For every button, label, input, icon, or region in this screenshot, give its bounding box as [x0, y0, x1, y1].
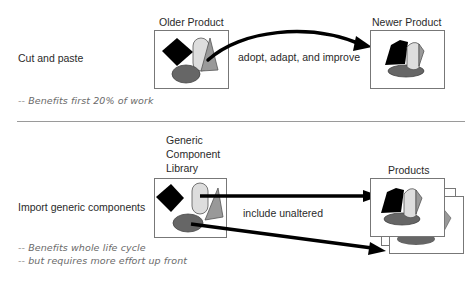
ellipse-icon: [172, 65, 200, 83]
capsule-icon: [407, 43, 419, 70]
products-stack: [371, 179, 464, 254]
newer-product-box: [371, 31, 445, 89]
diagram-graphics: [0, 0, 472, 282]
capsule-icon: [404, 189, 416, 218]
adopt-arrowhead: [353, 36, 372, 51]
older-product-box: [155, 31, 229, 89]
ellipse-icon: [173, 214, 203, 232]
adopt-arrow: [208, 32, 362, 60]
capsule-icon: [192, 183, 208, 214]
